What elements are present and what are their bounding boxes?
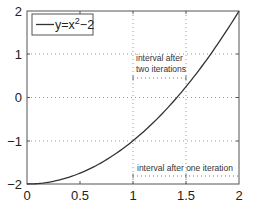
y-axis-labels: 2 1 0 −1 −2 — [7, 4, 22, 192]
legend-label-tail: −2 — [80, 18, 94, 32]
x-tick-label: 0 — [23, 188, 30, 203]
y-tick-label: 0 — [15, 90, 22, 105]
y-tick-label: −2 — [7, 177, 22, 192]
chart: interval after two iterations interval a… — [0, 0, 254, 209]
y-tick-label: −1 — [7, 134, 22, 149]
y-tick-label: 1 — [15, 47, 22, 62]
x-axis-labels: 0 0.5 1 1.5 2 — [23, 188, 242, 203]
legend: y=x2−2 — [32, 14, 94, 35]
x-tick-label: 1.5 — [177, 188, 195, 203]
legend-label: y=x2−2 — [55, 16, 94, 32]
annotation-two-iterations-line2: two iterations — [136, 64, 186, 74]
annotation-one-iteration: interval after one iteration — [137, 163, 233, 173]
legend-label-base: y=x — [55, 18, 76, 32]
x-tick-label: 1 — [129, 188, 136, 203]
x-tick-label: 2 — [235, 188, 242, 203]
x-tick-label: 0.5 — [71, 188, 89, 203]
y-tick-label: 2 — [15, 4, 22, 19]
annotation-two-iterations-line1: interval after — [136, 53, 183, 63]
